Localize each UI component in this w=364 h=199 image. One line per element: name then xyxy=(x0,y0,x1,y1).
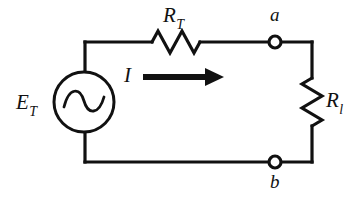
terminal-node-a-circle[interactable] xyxy=(269,36,281,48)
current-arrow-head xyxy=(205,68,224,86)
source-label-base: E xyxy=(16,90,29,114)
series-resistor-label-subscript: T xyxy=(176,17,184,32)
load-resistor-label-subscript: l xyxy=(339,102,343,117)
series-resistor-label-base: R xyxy=(163,3,176,27)
series-resistor-zigzag xyxy=(152,31,200,53)
load-resistor-label-base: R xyxy=(326,88,339,112)
load-resistor-zigzag xyxy=(302,78,322,126)
load-resistor-label: Rl xyxy=(326,90,343,114)
source-label-subscript: T xyxy=(29,104,37,119)
terminal-a-label: a xyxy=(270,5,280,24)
terminal-b-label: b xyxy=(270,172,280,191)
series-resistor-label: RT xyxy=(163,5,184,29)
source-label: ET xyxy=(16,92,37,116)
terminal-node-b-circle[interactable] xyxy=(269,156,281,168)
current-label: I xyxy=(124,65,131,86)
circuit-diagram-canvas: ET RT Rl a b I xyxy=(0,0,364,199)
